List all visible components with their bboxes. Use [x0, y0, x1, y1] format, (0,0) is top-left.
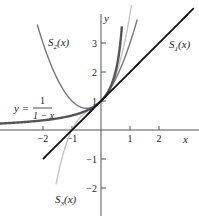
y-tick-label: 2 [92, 67, 97, 78]
s2-label: S2(x) [48, 36, 70, 51]
svg-text:1: 1 [40, 95, 45, 106]
y-ticks: −2−1123 [86, 38, 106, 194]
x-ticks: −2−112 [38, 126, 162, 144]
x-tick-label: 1 [128, 133, 133, 144]
y-tick-label: −1 [86, 154, 97, 165]
x-axis-label: x [182, 133, 188, 145]
svg-text:y =: y = [13, 102, 29, 114]
chart: −2−112 −2−1123 x y S2(x) S1(x) S3(x) y =… [0, 0, 199, 222]
y-tick-label: 3 [92, 38, 97, 49]
y-axis-label: y [103, 12, 109, 24]
s3-label: S3(x) [55, 193, 77, 208]
y-tick-label: −2 [86, 183, 97, 194]
x-tick-label: −2 [38, 133, 49, 144]
curve-s1 [43, 8, 194, 159]
s1-label: S1(x) [169, 38, 191, 53]
svg-text:1 − x: 1 − x [33, 110, 55, 121]
annotations: S2(x) S1(x) S3(x) y = 1 1 − x [13, 36, 191, 208]
function-label: y = 1 1 − x [13, 95, 55, 121]
x-tick-label: 2 [157, 133, 162, 144]
